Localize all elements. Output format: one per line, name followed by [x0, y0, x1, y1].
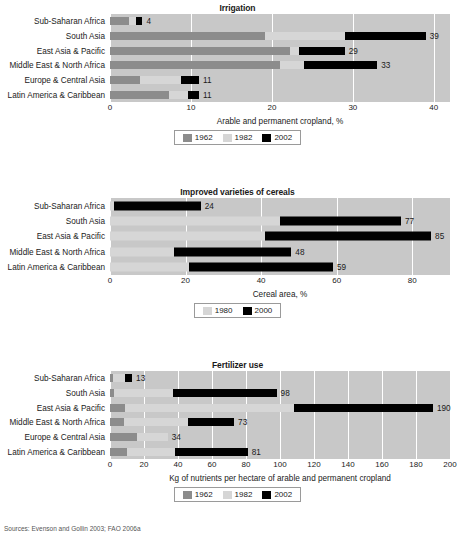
bar-value-label: 59: [337, 263, 346, 272]
bar-row: Sub-Saharan Africa4: [110, 14, 450, 29]
bar-segment-1982: [140, 76, 181, 84]
bar-segment-1962: [110, 47, 290, 55]
category-label: Europe & Central Asia: [24, 432, 105, 441]
bar-segment-2000: [265, 232, 431, 241]
bar-segment-1962: [110, 76, 140, 84]
x-tick-label: 40: [257, 276, 266, 285]
bar-segment-2002: [294, 404, 433, 412]
x-axis-label-irrigation: Arable and permanent cropland, %: [110, 117, 450, 127]
bar-segment-1962: [110, 61, 280, 69]
plot-area-improved-varieties: Sub-Saharan Africa24South Asia77East Asi…: [0, 198, 475, 275]
bar-row: East Asia & Pacific190: [110, 400, 450, 415]
category-label: Europe & Central Asia: [24, 75, 105, 84]
bar-segment-1980: [110, 217, 280, 226]
bar-segment-1982: [280, 61, 304, 69]
x-axis-improved-varieties: 020406080: [110, 275, 450, 289]
legend-item-1962[interactable]: 1962: [180, 133, 216, 142]
x-tick-label: 160: [375, 460, 388, 469]
bar-value-label: 81: [252, 447, 261, 456]
bar-segment-2002: [181, 76, 199, 84]
x-tick-label: 100: [273, 460, 286, 469]
gridline: [450, 371, 451, 459]
chart-panel-fertilizer-use: Fertilizer use Sub-Saharan Africa13South…: [0, 355, 475, 533]
legend-swatch-icon: [243, 307, 252, 315]
bar-segment-2002: [304, 61, 377, 69]
bar-value-label: 13: [136, 374, 145, 383]
x-tick-label: 0: [108, 276, 112, 285]
legend-swatch-icon: [183, 491, 192, 499]
bar-value-label: 48: [295, 247, 304, 256]
x-tick-label: 20: [267, 103, 276, 112]
bar-segment-1962: [110, 433, 137, 441]
x-axis-fertilizer-use: 020406080100120140160180200: [110, 459, 450, 473]
bar-segment-2002: [188, 418, 234, 426]
bar-value-label: 73: [238, 418, 247, 427]
legend-improved-varieties: 19802000: [0, 303, 475, 318]
chart-title-fertilizer-use: Fertilizer use: [0, 360, 475, 371]
bar-row: Europe & Central Asia11: [110, 73, 450, 88]
bar-value-label: 24: [205, 201, 214, 210]
legend-item-1980[interactable]: 1980: [200, 306, 236, 315]
bar-segment-2000: [114, 201, 201, 210]
legend-item-2002[interactable]: 2002: [259, 490, 295, 499]
bar-segment-1982: [125, 404, 293, 412]
x-tick-label: 20: [140, 460, 149, 469]
x-axis-irrigation: 010203040: [110, 102, 450, 116]
legend-label: 1982: [235, 133, 253, 142]
x-tick-label: 40: [174, 460, 183, 469]
bar-value-label: 85: [435, 232, 444, 241]
chart-panel-irrigation: Irrigation Sub-Saharan Africa4South Asia…: [0, 0, 475, 181]
category-label: South Asia: [66, 217, 105, 226]
legend-label: 2002: [274, 490, 292, 499]
category-label: Middle East & North Africa: [9, 247, 105, 256]
x-axis-label-fertilizer-use: Kg of nutrients per hectare of arable an…: [110, 474, 450, 484]
category-label: East Asia & Pacific: [37, 232, 105, 241]
legend-item-1962[interactable]: 1962: [180, 490, 216, 499]
bar-segment-1982: [114, 389, 173, 397]
legend-label: 1980: [215, 306, 233, 315]
legend-swatch-icon: [183, 134, 192, 142]
bar-segment-2000: [174, 247, 291, 256]
bar-row: Europe & Central Asia34: [110, 430, 450, 445]
legend-label: 1982: [235, 490, 253, 499]
legend-item-1982[interactable]: 1982: [220, 490, 256, 499]
bar-segment-1982: [137, 433, 168, 441]
bar-row: South Asia77: [110, 213, 450, 228]
bar-segment-1982: [169, 91, 188, 99]
plot-area-fertilizer-use: Sub-Saharan Africa13South Asia98East Asi…: [0, 371, 475, 459]
bar-segment-2002: [345, 32, 426, 40]
category-label: Middle East & North Africa: [9, 61, 105, 70]
legend-swatch-icon: [203, 307, 212, 315]
x-tick-label: 80: [242, 460, 251, 469]
bar-segment-2002: [175, 448, 248, 456]
bar-segment-1962: [110, 448, 127, 456]
bar-segment-2002: [299, 47, 345, 55]
bar-row: Latin America & Caribbean59: [110, 260, 450, 275]
category-label: South Asia: [66, 31, 105, 40]
chart-panel-improved-varieties: Improved varieties of cereals Sub-Sahara…: [0, 181, 475, 355]
legend-item-1982[interactable]: 1982: [220, 133, 256, 142]
bar-value-label: 11: [203, 90, 212, 99]
bar-value-label: 11: [203, 75, 212, 84]
bar-value-label: 39: [430, 31, 439, 40]
legend-label: 1962: [195, 133, 213, 142]
category-label: Sub-Saharan Africa: [34, 374, 105, 383]
bar-segment-2000: [280, 217, 401, 226]
category-label: Sub-Saharan Africa: [34, 201, 105, 210]
plot-area-irrigation: Sub-Saharan Africa4South Asia39East Asia…: [0, 14, 475, 102]
legend-label: 1962: [195, 490, 213, 499]
chart-title-improved-varieties: Improved varieties of cereals: [0, 187, 475, 198]
bar-value-label: 33: [381, 61, 390, 70]
legend-label: 2002: [274, 133, 292, 142]
legend-swatch-icon: [262, 134, 271, 142]
category-label: East Asia & Pacific: [37, 46, 105, 55]
bar-row: South Asia98: [110, 386, 450, 401]
legend-item-2000[interactable]: 2000: [240, 306, 276, 315]
x-tick-label: 60: [208, 460, 217, 469]
bar-value-label: 29: [349, 46, 358, 55]
bar-row: Sub-Saharan Africa24: [110, 198, 450, 213]
bar-segment-1962: [110, 91, 169, 99]
bar-segment-1980: [110, 247, 174, 256]
x-tick-label: 140: [341, 460, 354, 469]
legend-item-2002[interactable]: 2002: [259, 133, 295, 142]
